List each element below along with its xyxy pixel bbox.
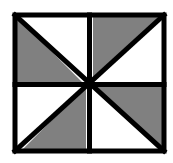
line-layer — [15, 15, 164, 151]
pinwheel-figure — [0, 0, 173, 163]
pinwheel-diagram — [0, 0, 173, 163]
